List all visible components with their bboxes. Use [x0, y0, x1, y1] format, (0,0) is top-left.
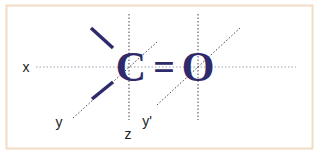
- carbon-atom: C: [116, 44, 146, 90]
- double-bond: =: [153, 46, 175, 88]
- carbonyl-axes-diagram: C = O x y z y': [0, 0, 318, 155]
- y-axis-label: y: [56, 114, 63, 130]
- y-prime-axis-label: y': [142, 113, 152, 129]
- z-axis-label: z: [125, 126, 132, 142]
- oxygen-atom: O: [182, 44, 215, 90]
- x-axis-label: x: [23, 59, 30, 75]
